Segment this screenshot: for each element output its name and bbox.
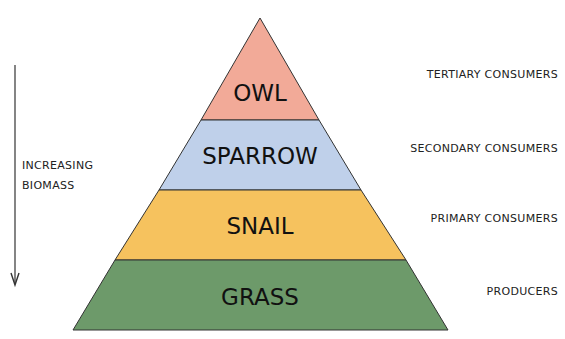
- tier-label-grass: GRASS: [221, 284, 299, 310]
- biomass-label-line2: BIOMASS: [22, 176, 93, 196]
- tier-label-owl: OWL: [233, 80, 287, 106]
- biomass-axis-label: INCREASING BIOMASS: [22, 156, 93, 196]
- level-label-primary: PRIMARY CONSUMERS: [431, 212, 558, 225]
- level-label-secondary: SECONDARY CONSUMERS: [410, 142, 558, 155]
- level-label-tertiary: TERTIARY CONSUMERS: [427, 68, 558, 81]
- biomass-label-line1: INCREASING: [22, 156, 93, 176]
- tier-label-sparrow: SPARROW: [202, 143, 318, 169]
- tier-label-snail: SNAIL: [226, 213, 293, 239]
- level-label-producers: PRODUCERS: [487, 285, 558, 298]
